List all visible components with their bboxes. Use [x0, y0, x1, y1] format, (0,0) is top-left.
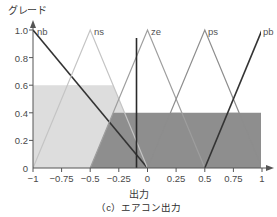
figure-caption: （c）エアコン出力 [0, 200, 277, 214]
x-tick-label: −0.75 [50, 173, 74, 184]
x-tick-label: 0.75 [224, 173, 243, 184]
fuzzy-output-chart: グレード 1.0 0.8 0.6 0.4 0.2 0 [0, 0, 277, 217]
x-tick-label: −1 [28, 173, 39, 184]
x-tick-label: −0.25 [107, 173, 131, 184]
x-tick-label: −0.5 [81, 173, 100, 184]
mf-label-pb: pb [263, 26, 274, 37]
y-axis-ticks [29, 30, 33, 140]
mf-label-nb: nb [37, 26, 48, 37]
mf-label-ns: ns [94, 26, 104, 37]
y-axis-arrow [30, 20, 36, 28]
x-axis-arrow [266, 165, 274, 171]
x-tick-label: 0 [145, 173, 150, 184]
x-tick-label: 0.25 [167, 173, 186, 184]
x-axis-ticks [33, 168, 262, 172]
mf-label-ps: ps [208, 26, 218, 37]
mf-label-ze: ze [151, 26, 161, 37]
x-tick-label: 1 [259, 173, 264, 184]
x-tick-label: 0.5 [198, 173, 211, 184]
x-axis-title: 出力 [0, 186, 277, 201]
